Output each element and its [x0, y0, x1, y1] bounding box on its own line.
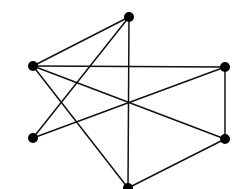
node-left-lower [28, 133, 38, 143]
graph-diagram [0, 0, 240, 189]
edge-left-upper-right-upper [33, 66, 225, 67]
node-left-upper [28, 61, 38, 71]
edges-layer [33, 17, 225, 188]
edge-top-left-upper [33, 17, 129, 66]
edge-right-lower-bottom [128, 139, 225, 188]
node-right-lower [220, 134, 230, 144]
node-top [124, 12, 134, 22]
node-right-upper [220, 62, 230, 72]
